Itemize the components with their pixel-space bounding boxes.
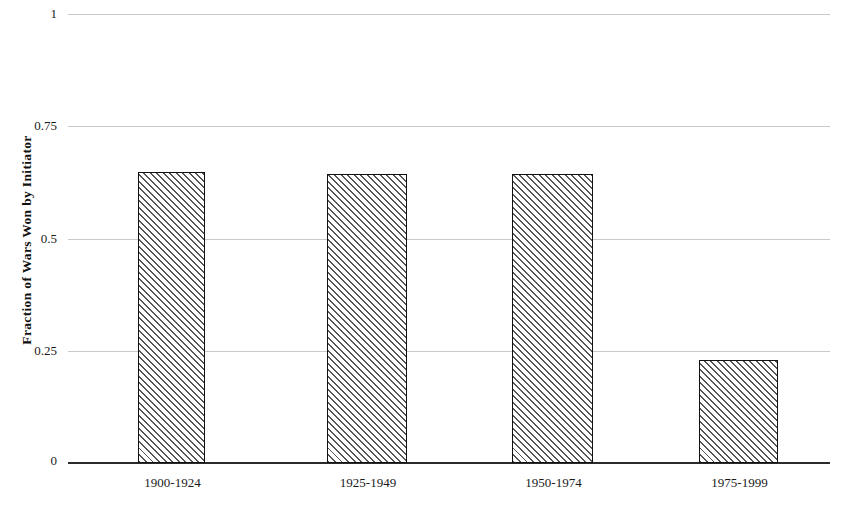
x-tick-label-1950-1974: 1950-1974: [525, 475, 581, 491]
y-tick-label-025: 0.25: [34, 343, 57, 359]
y-tick-label-0: 0: [51, 453, 58, 469]
y-tick-label-075: 0.75: [34, 118, 57, 134]
gridline-075: 0.75: [68, 126, 830, 127]
bar-1950-1974[interactable]: 1950-1974: [512, 174, 593, 463]
plot-area: 1 0.75 0.5 0.25 0 1900-1924 1925-1949 19…: [68, 14, 830, 463]
bar-1925-1949[interactable]: 1925-1949: [327, 174, 407, 463]
bar-chart-figure: Fraction of Wars Won by Initiator 1 0.75…: [0, 0, 853, 522]
x-tick-label-1975-1999: 1975-1999: [711, 475, 767, 491]
y-tick-label-05: 0.5: [41, 231, 57, 247]
x-tick-label-1925-1949: 1925-1949: [340, 475, 396, 491]
bar-1975-1999[interactable]: 1975-1999: [699, 360, 778, 463]
bar-1900-1924[interactable]: 1900-1924: [138, 172, 205, 463]
gridline-1: 1: [68, 14, 830, 15]
y-tick-label-1: 1: [51, 6, 58, 22]
y-axis-title: Fraction of Wars Won by Initiator: [16, 16, 38, 465]
x-tick-label-1900-1924: 1900-1924: [144, 475, 200, 491]
